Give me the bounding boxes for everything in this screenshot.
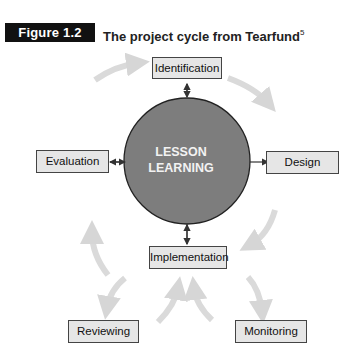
arrow-implementation-to-evaluation — [92, 232, 108, 275]
arrow-identification-to-design — [228, 78, 268, 103]
arrow-implementation-to-reviewing — [107, 278, 125, 308]
center-label: LESSON LEARNING — [140, 144, 222, 176]
arrow-design-to-implementation — [250, 210, 275, 245]
center-label-line2: LEARNING — [140, 160, 222, 176]
node-evaluation: Evaluation — [36, 150, 109, 173]
arrow-reviewing-to-implementation — [158, 288, 178, 322]
node-implementation: Implementation — [149, 246, 227, 269]
cycle-diagram — [0, 0, 357, 362]
node-reviewing: Reviewing — [68, 320, 139, 343]
arrow-monitoring-to-implementation — [194, 288, 212, 320]
node-design: Design — [266, 151, 339, 174]
arrow-implementation-to-monitoring — [248, 277, 262, 312]
node-monitoring: Monitoring — [235, 320, 307, 343]
center-label-line1: LESSON — [140, 144, 222, 160]
node-identification: Identification — [152, 57, 222, 79]
arrow-evaluation-to-identification — [95, 63, 138, 80]
